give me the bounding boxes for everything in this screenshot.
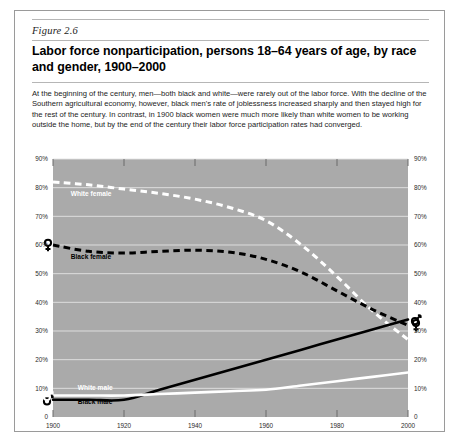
y-tick-label-left: 30% (35, 327, 48, 334)
y-tick-label-right: 70% (414, 213, 427, 220)
y-tick-label-left: 10% (35, 385, 48, 392)
y-tick-label-left: 20% (35, 356, 48, 363)
y-tick-label-left: 80% (35, 184, 48, 191)
y-tick-label-right: 0 (414, 413, 418, 420)
y-tick-label-right: 30% (414, 327, 427, 334)
marker-white-female-end (413, 334, 419, 346)
x-axis-labels: 190019201940196019802000 (46, 422, 416, 429)
x-tick-label: 2000 (401, 422, 416, 429)
y-axis-labels-right: 010%20%30%40%50%60%70%80%90% (414, 155, 427, 420)
y-tick-label-right: 80% (414, 184, 427, 191)
x-tick-label: 1920 (117, 422, 132, 429)
y-tick-label-left: 70% (35, 213, 48, 220)
figure-title: Labor force nonparticipation, persons 18… (32, 41, 429, 82)
annotation-white-male: White male (78, 384, 113, 391)
chart-container: White femaleBlack femaleWhite maleBlack … (15, 153, 446, 433)
x-tick-label: 1960 (259, 422, 274, 429)
x-tick-label: 1900 (46, 422, 61, 429)
figure-number: Figure 2.6 (32, 20, 429, 40)
y-tick-label-right: 10% (414, 385, 427, 392)
y-tick-label-right: 20% (414, 356, 427, 363)
female-ring (45, 177, 51, 183)
figure-caption: At the beginning of the century, men—bot… (32, 83, 429, 135)
y-axis-labels-left: 010%20%30%40%50%60%70%80%90% (35, 155, 48, 420)
y-tick-label-left: 60% (35, 241, 48, 248)
annotation-black-male: Black male (78, 398, 113, 405)
figure-card: Figure 2.6 Labor force nonparticipation,… (14, 10, 445, 432)
y-tick-label-right: 60% (414, 241, 427, 248)
annotation-black-female: Black female (71, 253, 112, 260)
figure-header: Figure 2.6 Labor force nonparticipation,… (32, 19, 429, 135)
y-tick-label-right: 90% (414, 155, 427, 162)
x-tick-label: 1980 (330, 422, 345, 429)
x-tick-label: 1940 (188, 422, 203, 429)
y-tick-label-left: 0 (44, 413, 48, 420)
y-tick-label-left: 40% (35, 299, 48, 306)
marker-white-male-end (412, 368, 421, 377)
female-ring (413, 334, 419, 340)
y-tick-label-left: 90% (35, 155, 48, 162)
y-tick-label-left: 50% (35, 270, 48, 277)
y-tick-label-right: 40% (414, 299, 427, 306)
line-chart: White femaleBlack femaleWhite maleBlack … (15, 153, 446, 433)
annotation-white-female: White female (71, 190, 112, 197)
y-tick-label-right: 50% (414, 270, 427, 277)
